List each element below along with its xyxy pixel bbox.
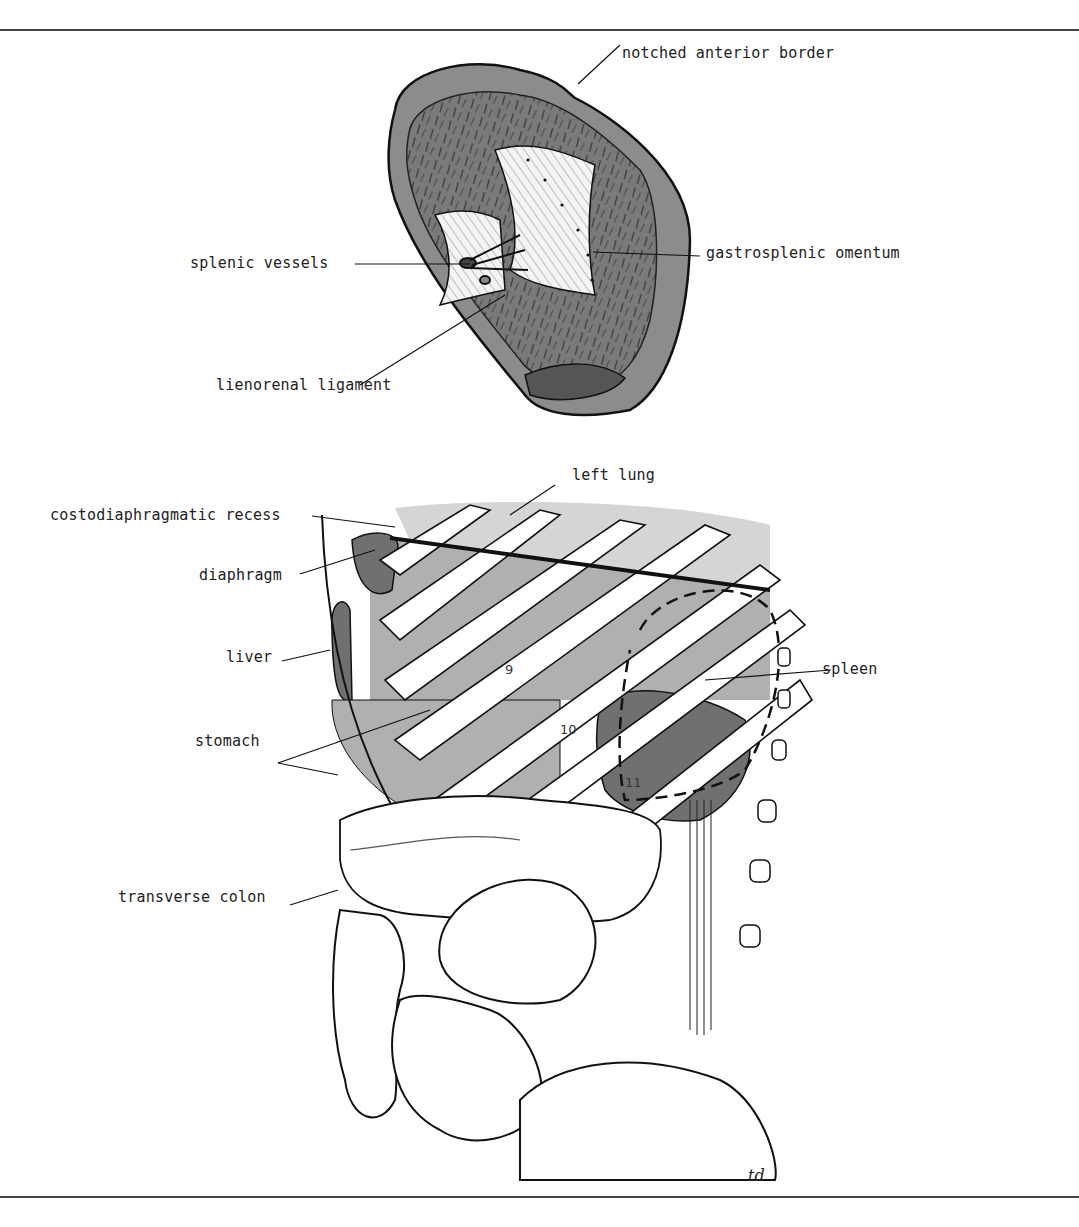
label-diaphragm: diaphragm <box>199 566 282 584</box>
label-left-lung: left lung <box>572 466 655 484</box>
label-liver: liver <box>226 648 272 666</box>
anatomical-illustration <box>0 0 1079 1227</box>
label-transverse-colon: transverse colon <box>118 888 266 906</box>
artist-signature: td <box>748 1166 765 1185</box>
label-stomach: stomach <box>195 732 260 750</box>
thoraco-abdominal-figure <box>278 485 831 1180</box>
label-spleen: spleen <box>822 660 877 678</box>
label-splenic-vessels: splenic vessels <box>190 254 328 272</box>
rib-number-10: 10 <box>560 722 577 737</box>
label-gastrosplenic-omentum: gastrosplenic omentum <box>706 244 900 262</box>
label-costodiaphragmatic-recess: costodiaphragmatic recess <box>50 506 281 524</box>
label-notched-anterior-border: notched anterior border <box>622 44 834 62</box>
label-lienorenal-ligament: lienorenal ligament <box>216 376 391 394</box>
rib-number-11: 11 <box>625 775 642 790</box>
rib-number-9: 9 <box>505 662 513 677</box>
spleen-upper-figure <box>355 45 700 415</box>
